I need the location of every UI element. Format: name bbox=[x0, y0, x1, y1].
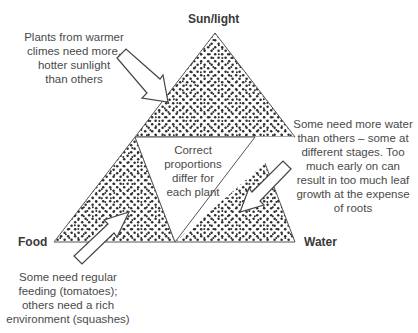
annotation-food: Some need regular feeding (tomatoes); ot… bbox=[0, 270, 136, 326]
center-text: Correct proportions differ for each plan… bbox=[148, 143, 238, 199]
label-sunlight: Sun/light bbox=[188, 12, 239, 26]
annotation-water: Some need more water than others – some … bbox=[290, 117, 416, 215]
label-water: Water bbox=[304, 235, 337, 249]
annotation-sunlight: Plants from warmer climes need more, hot… bbox=[12, 30, 136, 86]
label-food: Food bbox=[18, 235, 47, 249]
